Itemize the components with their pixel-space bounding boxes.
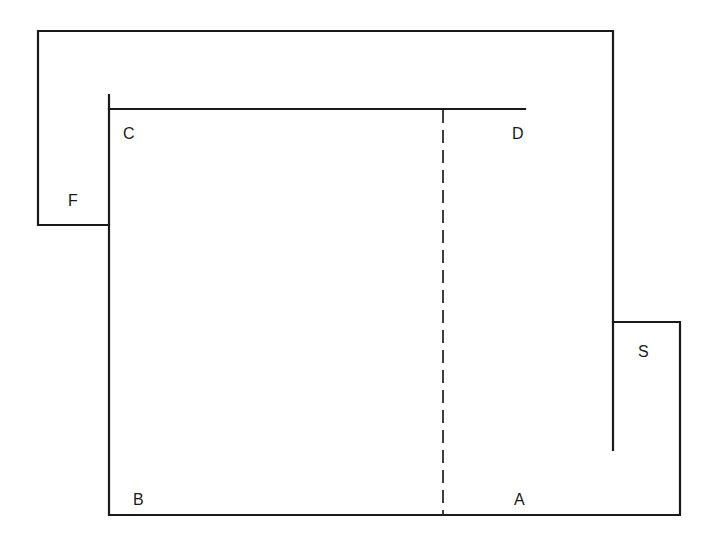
inner-left-and-bottom-wall bbox=[109, 95, 680, 515]
label-c: C bbox=[123, 125, 135, 142]
diagram-canvas: C D F S B A bbox=[0, 0, 713, 533]
label-a: A bbox=[514, 491, 525, 508]
label-b: B bbox=[133, 491, 144, 508]
label-s: S bbox=[638, 343, 649, 360]
outer-boundary-line bbox=[38, 31, 613, 450]
label-d: D bbox=[512, 125, 524, 142]
label-f: F bbox=[68, 192, 78, 209]
